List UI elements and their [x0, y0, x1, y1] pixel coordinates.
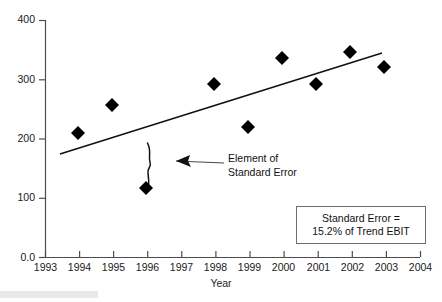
- data-point-1994: [71, 126, 85, 140]
- x-tick-label-1997: 1997: [164, 262, 199, 273]
- data-point-1996: [139, 181, 153, 195]
- data-point-2002: [343, 45, 357, 59]
- y-tick-label-100: 100: [5, 192, 35, 203]
- x-tick-label-1993: 1993: [28, 262, 63, 273]
- x-tick-label-1994: 1994: [62, 262, 97, 273]
- y-tick-label-200: 200: [5, 133, 35, 144]
- x-tick-label-2003: 2003: [369, 262, 404, 273]
- y-tick-label-400: 400: [5, 14, 35, 25]
- annotation-arrow: [176, 155, 224, 167]
- legend-line-1: Standard Error =: [322, 212, 400, 226]
- x-tick-label-1995: 1995: [96, 262, 131, 273]
- standard-error-brace: [148, 143, 151, 188]
- x-tick-label-2001: 2001: [301, 262, 336, 273]
- chart-plot-area: [0, 0, 442, 302]
- x-tick-label-1999: 1999: [232, 262, 267, 273]
- page-artifact-bar: [0, 291, 98, 298]
- x-tick-label-2004: 2004: [403, 262, 438, 273]
- x-tick-label-1996: 1996: [130, 262, 165, 273]
- legend-line-2: 15.2% of Trend EBIT: [312, 225, 409, 239]
- data-point-1999: [241, 120, 255, 134]
- x-axis-title: Year: [0, 277, 442, 289]
- standard-error-legend-box: Standard Error = 15.2% of Trend EBIT: [296, 206, 426, 244]
- data-point-1998: [207, 77, 221, 91]
- standard-error-annotation: Element of Standard Error: [228, 152, 297, 179]
- x-tick-label-2000: 2000: [266, 262, 301, 273]
- annotation-line-1: Element of: [228, 152, 297, 166]
- data-point-1995: [105, 98, 119, 112]
- data-point-2001: [309, 77, 323, 91]
- x-tick-label-2002: 2002: [335, 262, 370, 273]
- y-tick-label-0: 0.0: [5, 252, 35, 263]
- y-axis-ticks: [39, 21, 45, 258]
- x-axis-ticks: [46, 251, 421, 257]
- x-tick-label-1998: 1998: [198, 262, 233, 273]
- data-point-2000: [275, 51, 289, 65]
- data-point-2003: [377, 60, 391, 74]
- chart-figure: 400 300 200 100 0.0 1993 1994 1995 1996 …: [0, 0, 442, 302]
- y-tick-label-300: 300: [5, 74, 35, 85]
- annotation-line-2: Standard Error: [228, 166, 297, 180]
